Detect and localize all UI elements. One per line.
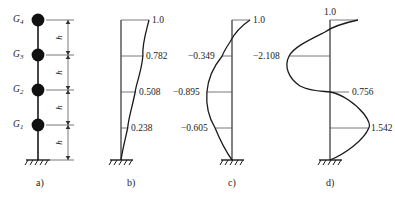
mass-node-g3 [32,49,45,62]
mass-label-g3: G3 [13,50,23,61]
story-height-label-1: h [55,136,64,150]
panel-caption-b: b) [127,178,135,188]
story-height-label-2: h [55,101,64,115]
mass-node-g4 [32,14,45,27]
story-height-label-4: h [55,31,64,45]
value-label-c-g1: −0.605 [181,124,208,134]
value-label-b-g3: 0.782 [146,52,167,62]
level-ticks-c [207,20,250,128]
value-label-c-g3: −0.349 [188,52,215,62]
panel-c-mode2 [207,20,250,165]
level-ticks-d [289,20,369,128]
panel-caption-d: d) [326,178,334,188]
value-label-d-g3: −2.108 [253,52,280,62]
mass-label-g2: G2 [13,85,23,96]
mass-label-g4: G4 [13,15,23,26]
value-label-c-g2: −0.895 [173,88,200,98]
mass-label-g1: G1 [13,120,23,131]
fixed-base-support-c [220,160,244,165]
panel-a-structure [25,14,74,165]
mode-shape-curve-c [207,20,250,160]
panel-caption-a: a) [36,178,44,188]
value-label-d-g2: 0.756 [352,88,373,98]
mass-node-g1 [32,119,45,132]
story-height-label-3: h [55,66,64,80]
value-label-c-g4: 1.0 [253,16,265,26]
value-label-b-g2: 0.508 [139,88,160,98]
value-label-d-g4: 1.0 [324,8,336,18]
panel-caption-c: c) [228,178,236,188]
fixed-base-support-b [109,160,133,165]
fixed-base-support-d [318,160,342,165]
mass-node-g2 [32,84,45,97]
fixed-base-support-a [25,160,50,165]
value-label-d-g1: 1.542 [371,124,392,134]
value-label-b-g1: 0.238 [131,124,152,134]
value-label-b-g4: 1.0 [152,16,164,26]
